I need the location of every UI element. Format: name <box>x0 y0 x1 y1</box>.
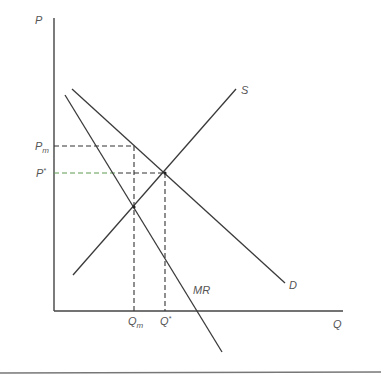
competitive-equilibrium-point <box>163 171 166 174</box>
supply-curve <box>73 89 236 275</box>
pstar-label: P* <box>36 167 46 179</box>
economics-diagram: P Q S D MR Pm P* Qm Q* <box>0 0 381 388</box>
curves <box>65 89 285 352</box>
mr-supply-intersection-point <box>132 205 135 208</box>
demand-label: D <box>289 279 297 291</box>
qm-label: Qm <box>128 315 144 330</box>
y-axis-label: P <box>35 14 43 26</box>
x-axis-label: Q <box>333 318 342 330</box>
mr-label: MR <box>193 284 210 296</box>
demand-curve <box>72 89 285 283</box>
supply-label: S <box>241 84 249 96</box>
pm-label: Pm <box>35 140 49 155</box>
bottom-rule <box>0 372 381 373</box>
qstar-label: Q* <box>160 315 172 327</box>
guide-lines <box>54 146 165 311</box>
marginal-revenue-curve <box>65 95 222 352</box>
